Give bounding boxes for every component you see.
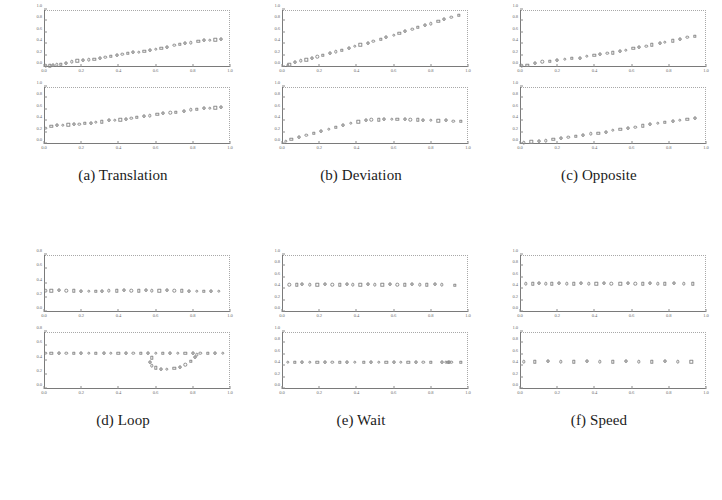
data-point [648, 281, 653, 286]
data-point [176, 352, 179, 355]
x-tick-label: 0.0 [279, 67, 284, 73]
data-point [524, 282, 527, 285]
data-point [637, 45, 642, 50]
x-tick-label: 0.8 [428, 389, 433, 395]
data-point [585, 54, 588, 57]
y-tick-label: 0.4 [513, 282, 520, 287]
data-point [44, 289, 47, 292]
subplot-e-bottom: 0.00.20.40.60.81.00.00.20.40.60.81.0 [248, 328, 474, 405]
x-tick-label: 0.8 [666, 144, 671, 150]
data-point [520, 64, 523, 67]
data-point [120, 53, 123, 56]
data-point [169, 111, 172, 114]
x-tick-label: 0.4 [354, 312, 359, 318]
x-tick-label: 0.6 [391, 144, 396, 150]
x-tick-label: 0.8 [428, 144, 433, 150]
y-tick-label: 0.6 [513, 102, 520, 107]
data-point [606, 52, 609, 55]
data-point [689, 360, 692, 363]
x-tick-label: 0.2 [316, 389, 321, 395]
y-tick-label: 0.8 [275, 14, 282, 19]
data-point [619, 282, 622, 285]
data-point [154, 366, 157, 369]
data-point-layer [520, 87, 706, 144]
y-tick-label: 1.0 [513, 325, 520, 330]
data-point [387, 282, 392, 287]
panel-d-caption: (d) Loop [10, 412, 236, 429]
y-tick-label: 0.4 [275, 37, 282, 42]
data-point [126, 52, 129, 55]
data-point [88, 121, 93, 126]
data-point [142, 114, 147, 119]
data-point [637, 360, 640, 363]
y-tick-label: 0.8 [513, 336, 520, 341]
data-point [184, 352, 187, 355]
data-point [429, 22, 432, 25]
data-point [396, 283, 399, 286]
x-tick-label: 0.0 [41, 389, 46, 395]
y-tick-label: 0.2 [513, 370, 520, 375]
data-point [213, 351, 218, 356]
panel-f: 0.00.20.40.60.81.00.00.20.40.60.81.0 0.0… [480, 251, 718, 496]
x-tick-label: 1.0 [465, 67, 470, 73]
data-point [55, 123, 60, 128]
data-point [432, 282, 437, 287]
data-point [158, 289, 161, 292]
data-point [353, 45, 356, 48]
data-point [290, 138, 293, 141]
x-tick-label: 0.0 [41, 67, 46, 73]
x-tick-label: 0.6 [391, 389, 396, 395]
data-point [164, 288, 169, 293]
y-tick-label: 1.0 [513, 248, 520, 253]
data-point [130, 289, 133, 292]
x-tick-label: 0.4 [354, 144, 359, 150]
data-point [656, 282, 659, 285]
data-point [410, 282, 415, 287]
data-point [686, 117, 689, 120]
data-point [641, 124, 644, 127]
data-point [319, 129, 324, 134]
y-tick-label: 0.2 [275, 293, 282, 298]
data-point [93, 57, 96, 60]
data-point [634, 282, 637, 285]
data-point [663, 121, 666, 124]
data-point [288, 63, 291, 66]
data-point [682, 282, 685, 285]
panel-a: 0.00.20.40.60.81.00.00.20.40.60.81.0 0.0… [4, 6, 242, 251]
data-point [72, 352, 75, 355]
data-point [59, 62, 62, 65]
data-point [544, 139, 547, 142]
x-tick-label: 0.2 [78, 144, 83, 150]
x-tick-label: 1.0 [465, 389, 470, 395]
x-tick-label: 1.0 [227, 67, 232, 73]
data-point [76, 59, 79, 62]
data-point [440, 283, 443, 286]
data-point [641, 282, 644, 285]
x-tick-label: 0.4 [592, 67, 597, 73]
data-point [603, 130, 608, 135]
data-point [410, 28, 413, 31]
data-point [392, 33, 395, 36]
data-point [221, 352, 224, 355]
data-point [295, 283, 298, 286]
data-point [79, 351, 84, 356]
data-point [650, 43, 653, 46]
y-tick-label: 0.2 [37, 290, 44, 295]
y-tick-label: 1.0 [37, 80, 44, 85]
y-tick-label: 1.0 [275, 325, 282, 330]
data-point [536, 281, 541, 286]
data-point [195, 290, 198, 293]
y-tick-label: 0.4 [37, 353, 44, 358]
data-point [139, 352, 142, 355]
panel-c-subplots: 0.00.20.40.60.81.00.00.20.40.60.81.0 0.0… [486, 6, 712, 160]
data-point [308, 283, 311, 286]
y-tick-label: 1.0 [275, 80, 282, 85]
y-tick-label: 0.2 [513, 293, 520, 298]
data-point [64, 61, 69, 66]
data-point [565, 282, 568, 285]
data-point [567, 135, 570, 138]
x-tick-label: 0.2 [554, 144, 559, 150]
data-point [87, 290, 90, 293]
data-point [208, 39, 211, 42]
data-point [362, 361, 365, 364]
